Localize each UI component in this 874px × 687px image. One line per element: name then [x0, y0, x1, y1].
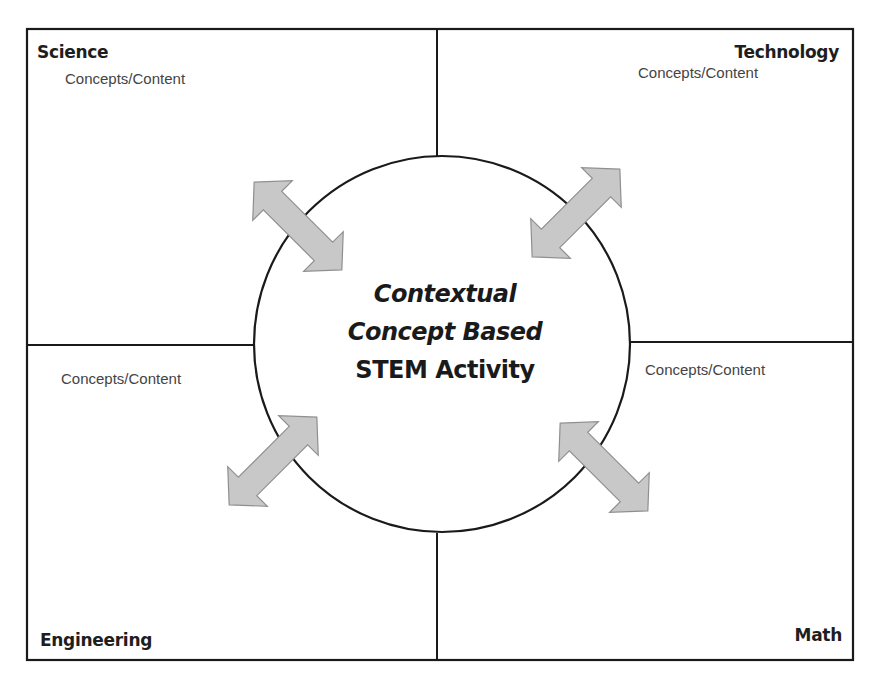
math-title: Math: [795, 625, 842, 645]
center-line-3: STEM Activity: [300, 351, 590, 389]
center-line-1: Contextual: [300, 275, 590, 313]
math-content-label: Concepts/Content: [645, 361, 765, 378]
technology-content-label: Concepts/Content: [638, 64, 758, 81]
center-line-2: Concept Based: [300, 313, 590, 351]
science-title: Science: [37, 42, 108, 62]
engineering-content-label: Concepts/Content: [61, 370, 181, 387]
center-title: Contextual Concept Based STEM Activity: [300, 275, 590, 389]
technology-title: Technology: [734, 42, 839, 62]
engineering-title: Engineering: [40, 630, 152, 650]
science-content-label: Concepts/Content: [65, 70, 185, 87]
